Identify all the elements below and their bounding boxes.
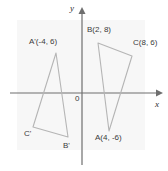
x-axis-label: x [155, 100, 159, 109]
y-axis-arrowhead [79, 7, 86, 14]
x-axis-arrowhead [156, 90, 163, 97]
label-a: A(4, -6) [95, 134, 122, 142]
label-a-prime: A'(-4, 6) [29, 38, 57, 46]
label-c: C(8, 6) [133, 39, 157, 47]
y-axis-label: y [70, 4, 74, 13]
label-b: B(2, 8) [87, 26, 111, 34]
coordinate-plane-figure: A'(-4, 6) B(2, 8) C(8, 6) A(4, -6) C' B'… [0, 0, 168, 171]
label-b-prime: B' [63, 142, 70, 150]
label-c-prime: C' [24, 130, 31, 138]
origin-label: 0 [75, 95, 79, 103]
graph-svg [0, 0, 168, 171]
